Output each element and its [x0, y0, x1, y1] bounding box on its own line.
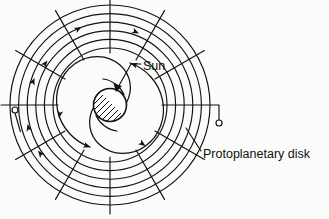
arrowhead-icon — [74, 24, 83, 33]
diagram-canvas — [0, 0, 329, 219]
pin-marker-icon-right — [216, 105, 222, 126]
sun-label: Sun — [143, 60, 165, 73]
arrowhead-icon — [83, 142, 92, 150]
protoplanetary-disk-figure: Sun Protoplanetary disk — [0, 0, 329, 219]
sun-leader-line — [114, 64, 141, 92]
arrowhead-icon — [138, 139, 147, 148]
protoplanetary-disk-label: Protoplanetary disk — [203, 148, 310, 161]
disk-leader-line — [186, 128, 201, 151]
